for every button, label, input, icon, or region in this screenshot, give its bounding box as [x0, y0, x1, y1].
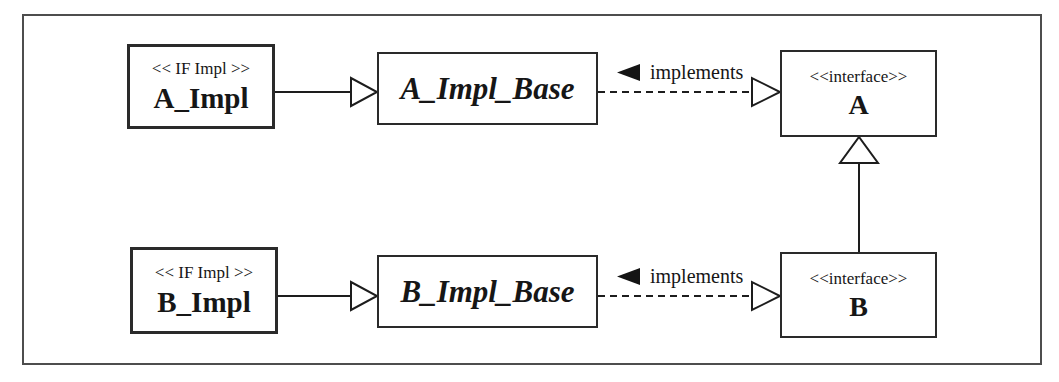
class-name: B_Impl	[157, 286, 250, 319]
interface-name: B	[849, 291, 868, 323]
stereotype-label: <<interface>>	[810, 66, 908, 87]
interface-box-a: <<interface>> A	[780, 50, 937, 137]
implements-label-top: implements	[617, 61, 743, 83]
implements-arrow-icon	[617, 268, 640, 285]
stereotype-label: <<interface>>	[810, 268, 908, 289]
interface-box-b: <<interface>> B	[780, 252, 937, 338]
class-name: A_Impl	[153, 82, 248, 115]
class-box-a-impl-base: A_Impl_Base	[377, 52, 598, 125]
class-box-b-impl: << IF Impl >> B_Impl	[130, 247, 278, 334]
implements-label-bottom: implements	[617, 265, 743, 287]
implements-text: implements	[650, 265, 743, 287]
implements-arrow-icon	[617, 64, 640, 81]
generalization-arrowhead-up-icon	[840, 137, 878, 163]
realization-arrowhead-icon	[752, 282, 780, 310]
implements-text: implements	[650, 61, 743, 83]
generalization-arrowhead-icon	[351, 78, 377, 106]
realization-arrowhead-icon	[752, 78, 780, 106]
class-name: B_Impl_Base	[401, 275, 575, 309]
class-name: A_Impl_Base	[401, 72, 575, 106]
generalization-arrowhead-icon	[351, 282, 377, 310]
class-box-b-impl-base: B_Impl_Base	[377, 255, 598, 328]
stereotype-label: << IF Impl >>	[155, 262, 253, 283]
uml-diagram-page: << IF Impl >> A_Impl A_Impl_Base <<inter…	[0, 0, 1059, 382]
class-box-a-impl: << IF Impl >> A_Impl	[127, 44, 275, 129]
stereotype-label: << IF Impl >>	[152, 58, 250, 79]
interface-name: A	[848, 89, 868, 121]
